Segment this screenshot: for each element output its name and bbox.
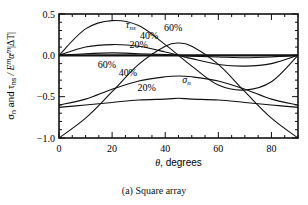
curve-annotation: 20% bbox=[129, 39, 147, 50]
chart-caption: (a) Square array bbox=[0, 185, 308, 196]
chart: 0204060800.50.0−0.5−1.0τns60%40%20%60%40… bbox=[0, 0, 308, 205]
curve-annotation: 60% bbox=[164, 22, 182, 33]
y-tick-label: −0.5 bbox=[37, 91, 55, 102]
curve-annotation: 40% bbox=[119, 67, 137, 78]
x-axis-label: θ, degrees bbox=[155, 157, 202, 168]
y-tick-label: 0.5 bbox=[43, 9, 56, 20]
curve-annotation: 60% bbox=[98, 59, 116, 70]
x-tick-label: 40 bbox=[160, 143, 170, 154]
curve-annotation: σn bbox=[182, 74, 191, 87]
curve-annotation: τns bbox=[126, 19, 136, 32]
y-tick-label: −1.0 bbox=[37, 133, 55, 144]
series-line-5 bbox=[59, 98, 298, 107]
x-tick-label: 20 bbox=[107, 143, 117, 154]
y-tick-label: 0.0 bbox=[43, 50, 56, 61]
x-tick-label: 80 bbox=[266, 143, 276, 154]
curve-annotation: 20% bbox=[137, 82, 155, 93]
x-tick-label: 60 bbox=[213, 143, 223, 154]
x-tick-label: 0 bbox=[57, 143, 62, 154]
y-axis-label: σn and τns / Emαm|ΔT| bbox=[5, 32, 17, 120]
series-line-4 bbox=[59, 76, 298, 105]
